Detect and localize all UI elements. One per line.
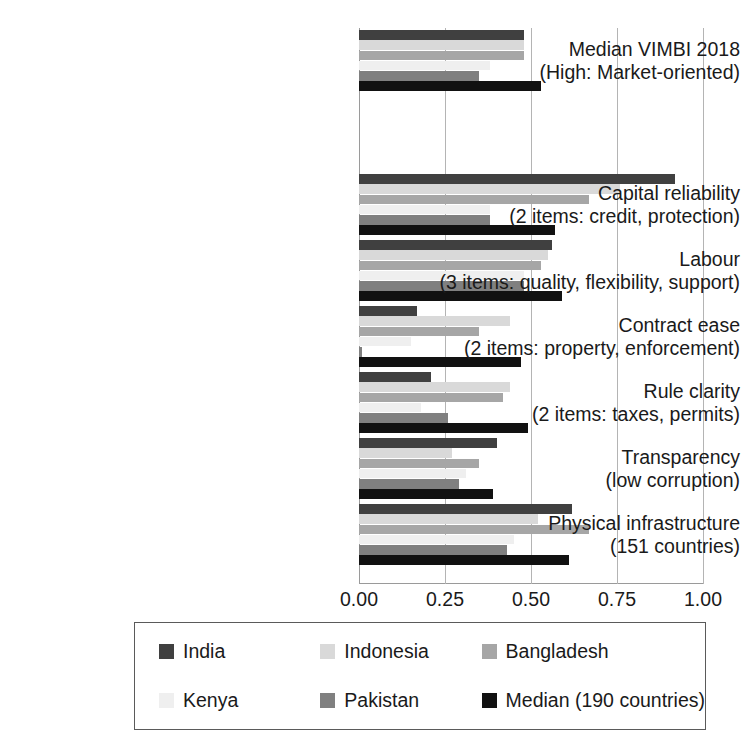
category-label: Contract ease(2 items: property, enforce… — [395, 314, 747, 360]
x-tick-label: 0.25 — [426, 588, 464, 611]
category-label-line1: Rule clarity — [395, 380, 740, 403]
category-label-line2: (High: Market-oriented) — [395, 61, 740, 84]
legend-swatch-icon — [320, 693, 335, 708]
category-label: Capital reliability(2 items: credit, pro… — [395, 182, 747, 228]
bar — [359, 347, 362, 357]
category-label: Median VIMBI 2018(High: Market-oriented) — [395, 38, 747, 84]
category-label-line1: Labour — [395, 248, 740, 271]
legend-item[interactable]: Pakistan — [320, 689, 481, 712]
legend-item-label: Kenya — [183, 689, 238, 712]
category-label: Physical infrastructure(151 countries) — [395, 512, 747, 558]
legend-item-label: India — [183, 640, 225, 663]
x-tick-label: 0.00 — [340, 588, 378, 611]
legend: IndiaIndonesiaBangladeshKenyaPakistanMed… — [134, 622, 706, 730]
legend-swatch-icon — [482, 693, 497, 708]
category-label-line2: (2 items: credit, protection) — [395, 205, 740, 228]
category-label-line1: Capital reliability — [395, 182, 740, 205]
legend-item[interactable]: Bangladesh — [482, 640, 705, 663]
legend-swatch-icon — [482, 644, 497, 659]
legend-swatch-icon — [320, 644, 335, 659]
legend-item[interactable]: Kenya — [159, 689, 320, 712]
category-label: Labour(3 items: quality, flexibility, su… — [395, 248, 747, 294]
legend-item-label: Indonesia — [344, 640, 429, 663]
legend-item[interactable]: Indonesia — [320, 640, 481, 663]
legend-item[interactable]: India — [159, 640, 320, 663]
legend-swatch-icon — [159, 693, 174, 708]
category-label: Transparency(low corruption) — [395, 446, 747, 492]
legend-item-label: Median (190 countries) — [506, 689, 705, 712]
legend-grid: IndiaIndonesiaBangladeshKenyaPakistanMed… — [135, 623, 705, 729]
category-label-line2: (2 items: property, enforcement) — [395, 337, 740, 360]
category-label-line2: (2 items: taxes, permits) — [395, 403, 740, 426]
legend-item[interactable]: Median (190 countries) — [482, 689, 705, 712]
category-label-line2: (3 items: quality, flexibility, support) — [395, 271, 740, 294]
plot-area — [359, 28, 703, 584]
category-label-line2: (low corruption) — [395, 469, 740, 492]
category-label: Rule clarity(2 items: taxes, permits) — [395, 380, 747, 426]
legend-swatch-icon — [159, 644, 174, 659]
x-tick-label: 0.50 — [512, 588, 550, 611]
gridline — [703, 28, 704, 584]
bar-chart: Median VIMBI 2018(High: Market-oriented)… — [0, 0, 747, 755]
legend-item-label: Pakistan — [344, 689, 419, 712]
category-label-line1: Physical infrastructure — [395, 512, 740, 535]
category-label-line1: Contract ease — [395, 314, 740, 337]
x-tick-label: 1.00 — [684, 588, 722, 611]
category-label-line2: (151 countries) — [395, 535, 740, 558]
category-label-line1: Median VIMBI 2018 — [395, 38, 740, 61]
category-label-line1: Transparency — [395, 446, 740, 469]
x-tick-label: 0.75 — [598, 588, 636, 611]
legend-item-label: Bangladesh — [506, 640, 609, 663]
